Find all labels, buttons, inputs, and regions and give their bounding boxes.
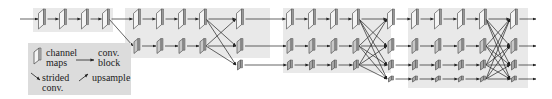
legend-channel-label-1: channel	[46, 48, 77, 57]
channel-map	[389, 76, 394, 82]
legend-conv-label-1: conv.	[98, 48, 119, 57]
legend-strided-label-1: strided	[42, 73, 69, 82]
legend-channel-label-2: maps	[46, 58, 67, 67]
channel-map	[389, 60, 394, 70]
conv-block-arrow-icon	[76, 57, 96, 63]
legend-strided-label-2: conv.	[42, 83, 63, 92]
legend-upsample-label: upsample	[92, 73, 130, 82]
channel-map	[238, 60, 243, 70]
hrnet-architecture-diagram: channel maps conv. block strided conv. u…	[0, 0, 552, 99]
legend-conv-label-2: block	[98, 58, 120, 67]
legend-box: channel maps conv. block strided conv. u…	[28, 43, 131, 95]
stage-panel-4	[408, 8, 528, 88]
upsample-arrow-icon	[78, 72, 90, 82]
stage-panel-2	[125, 8, 270, 58]
strided-conv-arrow-icon	[30, 72, 42, 82]
channel-map	[388, 39, 394, 54]
channel-map-icon	[33, 47, 43, 65]
